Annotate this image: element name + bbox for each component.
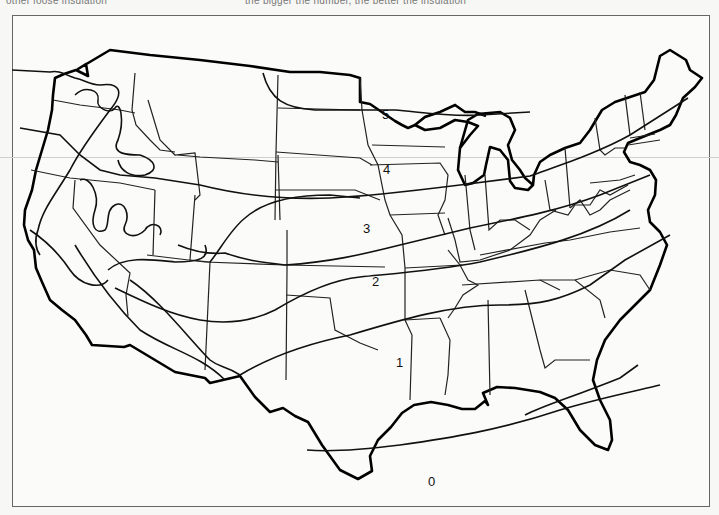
zone-label-1: 1 [396,355,403,370]
zone-label-2: 2 [372,274,379,289]
us-zone-map: 5 4 3 2 1 0 [0,0,719,515]
state-boundaries [31,73,660,400]
zone-label-4: 4 [383,162,390,177]
zone-boundary-lines [12,70,688,451]
zone-label-5: 5 [382,107,389,122]
zone-label-0: 0 [428,474,435,489]
zone-label-3: 3 [363,221,370,236]
